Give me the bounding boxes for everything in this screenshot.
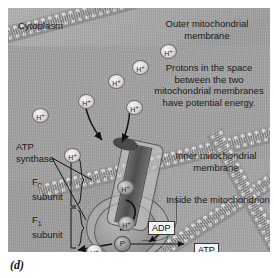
- label-outer-membrane: Outer mitochondrial membrane: [148, 18, 266, 41]
- f1-subscript: 1: [38, 220, 42, 227]
- proton-9: H+: [118, 216, 135, 231]
- label-cytoplasm: Cytoplasm: [18, 20, 63, 32]
- label-atp-synthase: ATP synthase: [16, 141, 74, 164]
- f0-word: subunit: [32, 191, 63, 202]
- f1-word: subunit: [32, 229, 63, 240]
- proton-8: H+: [117, 180, 134, 195]
- f0-subscript: 0: [38, 182, 42, 189]
- proton-6: H+: [126, 100, 143, 115]
- proton-1: H+: [32, 108, 49, 123]
- proton-4: H+: [132, 60, 149, 75]
- proton-3: H+: [108, 74, 125, 89]
- adp-label-box: ADP: [148, 221, 175, 235]
- f1-bracket-left: [71, 208, 76, 248]
- proton-2: H+: [78, 94, 95, 109]
- figure-panel: H+ H+ H+ H+ H+ H+ H+ H+ H+ H+ P Cytoplas…: [8, 8, 270, 252]
- label-f1-subunit: F1 subunit: [32, 214, 63, 241]
- atp-label-box: ATP: [194, 243, 219, 252]
- proton-5: H+: [160, 44, 177, 59]
- label-protons-note: Protons in the space between the two mit…: [150, 62, 268, 108]
- proton-10: H+: [86, 244, 103, 252]
- label-f0-subunit: F0 subunit: [32, 176, 63, 203]
- f1-bracket-right: [78, 210, 84, 246]
- label-inner-membrane: Inner mitochondrial membrane: [160, 150, 270, 173]
- phosphate-group: P: [114, 236, 131, 252]
- figure-letter: (d): [10, 258, 24, 273]
- label-inside-mitochondrion: Inside the mitochondrion: [166, 194, 270, 206]
